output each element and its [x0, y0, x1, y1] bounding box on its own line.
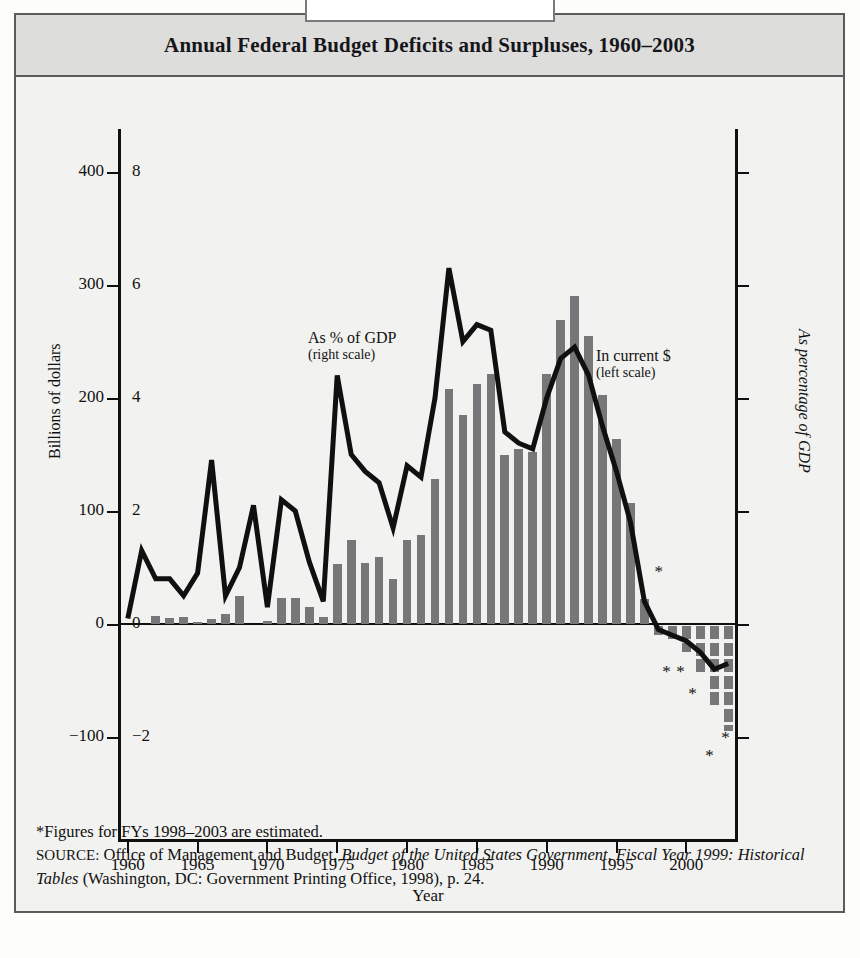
y-tick-right-2	[738, 511, 749, 513]
star-2003: *	[721, 728, 730, 748]
y-tick-right-8	[738, 172, 749, 174]
y-tick-left-200	[107, 398, 118, 400]
top-notch-tab	[305, 0, 555, 22]
y-label-left-400: 400	[79, 161, 105, 181]
star-1998: *	[654, 562, 663, 582]
annotation-line-series-title: As % of GDP	[308, 329, 396, 347]
page-title: Annual Federal Budget Deficits and Surpl…	[164, 33, 695, 58]
footnote-estimates: *Figures for FYs 1998–2003 are estimated…	[36, 820, 826, 843]
figure-notes: *Figures for FYs 1998–2003 are estimated…	[36, 820, 826, 890]
y-tick-right-0	[738, 624, 749, 626]
figure-root: Annual Federal Budget Deficits and Surpl…	[0, 0, 860, 958]
y-label-left-200: 200	[79, 387, 105, 407]
star-2001: *	[688, 684, 697, 704]
annotation-line-series: As % of GDP (right scale)	[308, 329, 396, 363]
y-label-left-0: 0	[96, 613, 105, 633]
y-tick-left-100	[107, 511, 118, 513]
y-tick-left-neg100	[107, 737, 118, 739]
annotation-bar-series: In current $ (left scale)	[596, 347, 671, 381]
chart-panel: 400 300 200 100 0 −100 8 6 4 2 0 −2 1960…	[16, 79, 843, 911]
y-label-left-100: 100	[79, 500, 105, 520]
y-label-left-300: 300	[79, 274, 105, 294]
star-2002: *	[705, 746, 714, 766]
source-note: SOURCE: Office of Management and Budget,…	[36, 843, 826, 890]
annotation-bar-series-title: In current $	[596, 347, 671, 365]
y-label-left-neg100: −100	[69, 726, 104, 746]
gdp-percent-line-series	[118, 129, 738, 842]
y-tick-right-neg2	[738, 737, 749, 739]
y-tick-left-400	[107, 172, 118, 174]
y-tick-right-6	[738, 285, 749, 287]
figure-title-band: Annual Federal Budget Deficits and Surpl…	[16, 15, 843, 77]
y-tick-left-0	[107, 624, 118, 626]
source-text-1: Office of Management and Budget,	[99, 845, 341, 864]
annotation-line-series-sub: (right scale)	[308, 347, 396, 363]
star-2000: *	[676, 662, 685, 682]
star-1999: *	[662, 662, 671, 682]
y-tick-left-300	[107, 285, 118, 287]
y-tick-right-4	[738, 398, 749, 400]
source-label: SOURCE:	[36, 847, 99, 863]
y-axis-title-right: As percentage of GDP	[795, 329, 813, 473]
annotation-bar-series-sub: (left scale)	[596, 365, 671, 381]
y-axis-title-left: Billions of dollars	[46, 343, 64, 459]
source-text-2: (Washington, DC: Government Printing Off…	[79, 869, 485, 888]
plot-area: 400 300 200 100 0 −100 8 6 4 2 0 −2 1960…	[118, 129, 738, 842]
